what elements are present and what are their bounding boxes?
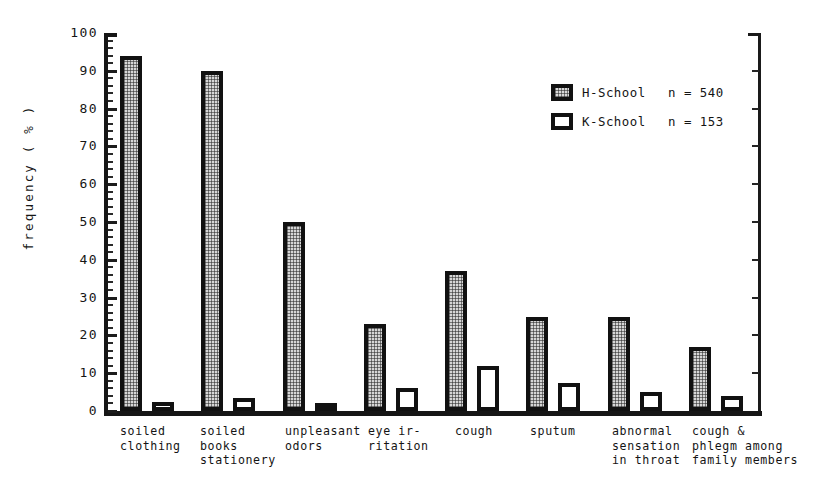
bar-k-school-3 xyxy=(396,388,418,411)
y-tick-label-40: 40 xyxy=(52,252,98,267)
y-tick-label-50: 50 xyxy=(52,214,98,229)
legend-swatch-h-school-icon xyxy=(551,84,573,101)
x-category-label-3: eye ir- ritation xyxy=(368,424,429,453)
bar-chart-figure: frequency ( % ) 0102030405060708090100 s… xyxy=(0,0,828,496)
chart-legend: H-School n = 540 K-School n = 153 xyxy=(551,78,724,136)
legend-n-h-school: n = 540 xyxy=(668,85,724,100)
bar-k-school-4 xyxy=(477,366,499,411)
y-tick-label-100: 100 xyxy=(52,25,98,40)
y-tick-label-20: 20 xyxy=(52,327,98,342)
right-axis-spine xyxy=(758,33,761,416)
bar-h-school-6 xyxy=(608,317,630,412)
bar-h-school-5 xyxy=(526,317,548,412)
y-tick-label-0: 0 xyxy=(52,403,98,418)
legend-label-h-school: H-School xyxy=(582,85,668,100)
bar-h-school-2 xyxy=(283,222,305,411)
x-category-label-6: abnormal sensation in throat xyxy=(612,424,680,468)
legend-n-k-school: n = 153 xyxy=(668,114,724,129)
bar-h-school-3 xyxy=(364,324,386,411)
y-axis-title: frequency ( % ) xyxy=(21,88,36,268)
x-category-label-0: soiled clothing xyxy=(120,424,181,453)
legend-label-k-school: K-School xyxy=(582,114,668,129)
y-tick-label-90: 90 xyxy=(52,63,98,78)
bar-h-school-1 xyxy=(201,71,223,411)
y-tick-label-80: 80 xyxy=(52,101,98,116)
bar-k-school-6 xyxy=(640,392,662,411)
bar-h-school-0 xyxy=(120,56,142,411)
legend-item-h-school: H-School n = 540 xyxy=(551,78,724,107)
y-tick-label-60: 60 xyxy=(52,176,98,191)
bar-k-school-0 xyxy=(152,402,174,411)
bar-k-school-1 xyxy=(233,398,255,411)
x-category-label-7: cough & phlegm among family members xyxy=(692,424,798,468)
y-tick-label-70: 70 xyxy=(52,138,98,153)
x-axis-spine xyxy=(104,411,762,416)
y-tick-label-30: 30 xyxy=(52,290,98,305)
legend-item-k-school: K-School n = 153 xyxy=(551,107,724,136)
bar-k-school-2 xyxy=(315,403,337,411)
x-category-label-4: cough xyxy=(455,424,493,439)
bar-h-school-4 xyxy=(445,271,467,411)
bar-h-school-7 xyxy=(689,347,711,411)
x-category-label-1: soiled books stationery xyxy=(200,424,276,468)
legend-swatch-k-school-icon xyxy=(551,113,573,130)
y-tick-label-10: 10 xyxy=(52,365,98,380)
x-category-label-2: unpleasant odors xyxy=(285,424,361,453)
x-category-label-5: sputum xyxy=(530,424,575,439)
bar-k-school-7 xyxy=(721,396,743,411)
bar-k-school-5 xyxy=(558,383,580,411)
